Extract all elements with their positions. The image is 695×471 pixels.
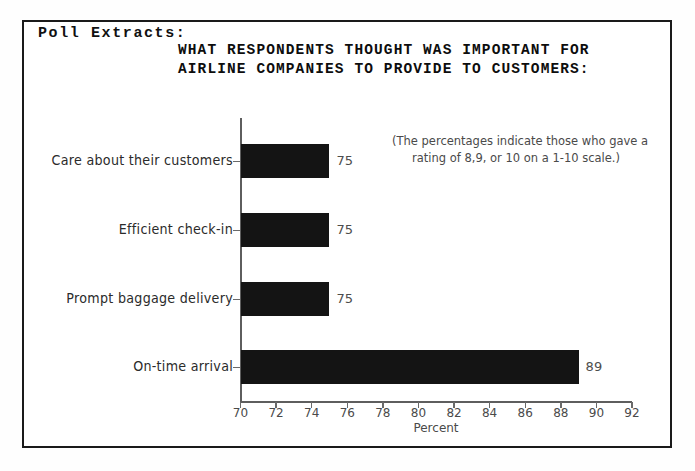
note-line-2: rating of 8,9, or 10 on a 1-10 scale.) [392, 150, 640, 167]
chart-frame-border [22, 20, 672, 448]
section-label: Poll Extracts: [38, 25, 186, 42]
chart-title: WHAT RESPONDENTS THOUGHT WAS IMPORTANT F… [178, 41, 608, 79]
chart-annotation-note: (The percentages indicate those who gave… [392, 133, 640, 167]
poll-extract-page: Poll Extracts: WHAT RESPONDENTS THOUGHT … [0, 0, 695, 471]
chart-title-line-2: AIRLINE COMPANIES TO PROVIDE TO CUSTOMER… [178, 60, 608, 79]
note-line-1: (The percentages indicate those who gave… [392, 133, 640, 150]
chart-title-line-1: WHAT RESPONDENTS THOUGHT WAS IMPORTANT F… [178, 41, 608, 60]
